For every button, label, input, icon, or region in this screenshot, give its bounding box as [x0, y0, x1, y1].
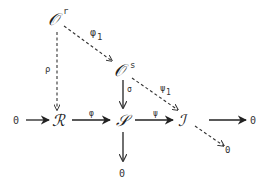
arrow-sigma: σ [123, 80, 132, 108]
arrow-J-to-zero-diag [195, 126, 224, 146]
commutative-diagram: 𝒪 r 𝒪 s 0 ℛ 𝒮 ℐ 0 0 0 φ 1 ρ σ ψ 1 φ ψ [0, 0, 269, 189]
arrow-phi: φ [72, 109, 110, 120]
node-zero-diag: 0 [225, 145, 230, 155]
arrow-phi1-label: φ [90, 27, 96, 38]
arrow-psi1: ψ 1 [132, 78, 178, 110]
node-O-s-superscript: s [130, 60, 135, 70]
arrow-phi1: φ 1 [64, 26, 112, 61]
node-O-r-symbol: 𝒪 [48, 9, 63, 29]
node-O-s-symbol: 𝒪 [114, 60, 129, 80]
arrow-psi1-label: ψ [160, 83, 165, 93]
node-J: ℐ [178, 111, 188, 130]
node-O-s: 𝒪 s [114, 60, 135, 80]
node-zero-left: 0 [13, 115, 19, 126]
node-S: 𝒮 [116, 111, 133, 130]
node-R: ℛ [52, 111, 66, 130]
arrow-rho: ρ [45, 32, 57, 110]
node-zero-right: 0 [250, 115, 256, 126]
arrow-psi1-subscript: 1 [166, 88, 171, 97]
arrow-rho-label: ρ [45, 64, 50, 74]
arrow-psi: ψ [135, 109, 173, 120]
node-zero-below-S: 0 [119, 168, 125, 179]
arrow-phi1-subscript: 1 [97, 32, 102, 42]
arrow-psi-label: ψ [153, 109, 158, 118]
arrow-phi-label: φ [89, 109, 94, 118]
node-O-r-superscript: r [63, 6, 69, 16]
arrow-sigma-label: σ [127, 85, 132, 94]
node-O-r: 𝒪 r [48, 6, 69, 29]
